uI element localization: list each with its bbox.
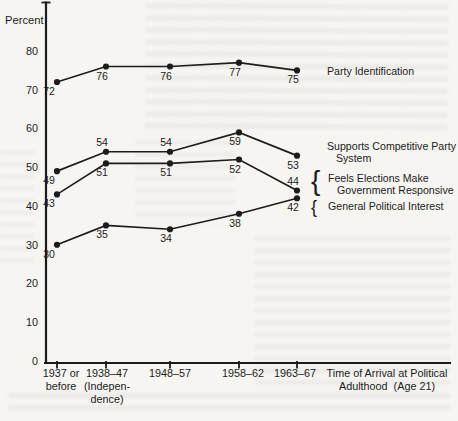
data-point-label: 54: [160, 136, 172, 148]
x-category-label: 1963–67: [274, 367, 316, 379]
y-tick-label: 0: [32, 355, 38, 367]
series-line-1: [57, 132, 297, 171]
y-tick-label: 10: [26, 316, 38, 328]
x-axis-title-line: Time of Arrival at Political: [327, 367, 448, 379]
annotation-brace: {: [311, 165, 320, 196]
data-point-label: 44: [287, 175, 299, 187]
data-point-label: 51: [96, 166, 108, 178]
x-category-label: 1938–47: [86, 367, 128, 379]
line-chart: Percent 80706050403020100 1937 orbefore1…: [0, 0, 458, 421]
data-point-label: 49: [43, 174, 55, 186]
data-point-label: 30: [43, 248, 55, 260]
x-category-label: 1948–57: [149, 367, 191, 379]
x-axis-title-line: Adulthood (Age 21): [339, 380, 435, 392]
y-axis-title: Percent: [5, 14, 44, 26]
data-point: [294, 187, 300, 193]
data-point-label: 76: [160, 70, 172, 82]
data-point-label: 51: [160, 166, 172, 178]
data-point-label: 76: [96, 70, 108, 82]
data-point: [103, 149, 109, 155]
y-tick-labels: 80706050403020100: [26, 45, 38, 367]
x-category-label: (Indepen-: [84, 380, 131, 392]
series-annotations: Party IdentificationSupports Competitive…: [311, 65, 457, 217]
x-category-labels: 1937 orbefore1938–47(Indepen-dence)1948–…: [43, 367, 316, 405]
y-tick-label: 50: [26, 161, 38, 173]
data-point-label: 38: [229, 217, 241, 229]
y-tick-label: 30: [26, 239, 38, 251]
y-tick-label: 60: [26, 122, 38, 134]
data-point-label: 52: [229, 163, 241, 175]
data-point-label: 59: [229, 135, 241, 147]
series-annotation: Government Responsive: [337, 184, 454, 196]
y-tick-label: 20: [26, 277, 38, 289]
x-category-label: dence): [90, 393, 123, 405]
series-line-0: [57, 63, 297, 82]
annotation-brace: {: [311, 197, 317, 217]
series-line-2: [57, 160, 297, 195]
series-annotation: Party Identification: [327, 65, 414, 77]
series-lines: 7276767775495454595343515152443035343842: [43, 60, 300, 260]
data-point-label: 72: [43, 85, 55, 97]
y-tick-label: 70: [26, 84, 38, 96]
y-tick-label: 80: [26, 45, 38, 57]
data-point-label: 77: [229, 66, 241, 78]
data-point-label: 35: [96, 228, 108, 240]
series-annotation: Feels Elections Make: [328, 172, 429, 184]
x-category-label: before: [46, 380, 77, 392]
data-point-label: 42: [287, 201, 299, 213]
x-category-label: 1937 or: [43, 367, 80, 379]
x-axis-title: Time of Arrival at PoliticalAdulthood (A…: [327, 367, 448, 392]
series-annotation: General Political Interest: [328, 200, 443, 212]
series-annotation: Supports Competitive Party: [327, 140, 457, 152]
data-point-label: 53: [287, 159, 299, 171]
series-annotation: System: [336, 152, 371, 164]
x-category-label: 1958–62: [222, 367, 264, 379]
y-tick-label: 40: [26, 200, 38, 212]
scanned-book-page: Percent 80706050403020100 1937 orbefore1…: [0, 0, 458, 421]
data-point-label: 75: [287, 73, 299, 85]
data-point-label: 54: [96, 136, 108, 148]
series-line-3: [57, 198, 297, 245]
data-point-label: 34: [160, 232, 172, 244]
data-point: [167, 149, 173, 155]
data-point-label: 43: [43, 197, 55, 209]
